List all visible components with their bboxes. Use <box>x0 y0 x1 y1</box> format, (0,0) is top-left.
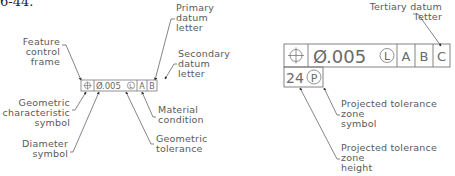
right-projected-zone-symbol: P <box>311 72 318 85</box>
right-datum-b: B <box>420 49 429 64</box>
right-projected-zone-height: 24 <box>286 70 304 86</box>
projected-zone-circle-icon: P <box>307 70 321 85</box>
right-leader-lines <box>300 14 441 159</box>
left-datum-a: A <box>139 82 145 91</box>
left-tolerance-value: .005 <box>102 81 121 91</box>
left-datum-b: B <box>149 82 155 91</box>
right-material-condition-circle-icon: L <box>380 49 394 64</box>
left-material-condition: L <box>129 82 133 89</box>
left-material-condition-circle-icon: L <box>127 82 134 89</box>
right-position-symbol-icon <box>288 48 304 64</box>
right-datum-a: A <box>402 49 411 64</box>
right-material-condition: L <box>384 50 391 63</box>
right-datum-c: C <box>437 49 446 64</box>
left-position-symbol-icon <box>84 82 92 90</box>
right-tolerance-value: .005 <box>326 46 366 67</box>
diagram-canvas: Ø .005 L A B Ø .005 L <box>0 0 455 176</box>
